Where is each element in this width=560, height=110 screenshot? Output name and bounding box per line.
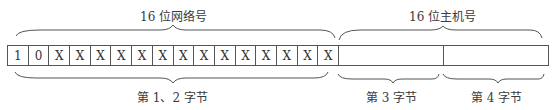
bit-cell: X — [69, 45, 91, 66]
bit-cell: X — [235, 45, 257, 66]
bytes12-brace — [15, 72, 328, 83]
bit-cell: X — [214, 45, 236, 66]
bit-cell: X — [110, 45, 132, 66]
byte4-cell — [443, 45, 549, 66]
bit-cell: 1 — [7, 45, 29, 66]
byte-3-label: 第 3 字节 — [366, 88, 417, 105]
bit-cell: X — [276, 45, 298, 66]
bit-cell: X — [297, 45, 319, 66]
ip-address-bit-row: 1 0 X X X X X X X X X X X X X X — [7, 45, 549, 66]
byte3-cell — [338, 45, 444, 66]
bit-cell: X — [48, 45, 70, 66]
bit-cell: X — [131, 45, 153, 66]
bit-cell: X — [152, 45, 174, 66]
byte3-brace — [338, 74, 439, 83]
host-bits-label: 16 位主机号 — [409, 7, 476, 24]
byte4-brace — [443, 74, 544, 83]
network-brace — [16, 25, 335, 38]
bit-cell: X — [173, 45, 195, 66]
bit-cell: X — [193, 45, 215, 66]
network-bits-label: 16 位网络号 — [140, 7, 207, 24]
bytes-1-2-label: 第 1、2 字节 — [137, 88, 208, 105]
bit-cell: X — [255, 45, 277, 66]
byte-4-label: 第 4 字节 — [471, 88, 522, 105]
bit-cell: 0 — [28, 45, 50, 66]
host-brace — [339, 26, 542, 40]
bit-cell: X — [317, 45, 339, 66]
bit-cell: X — [90, 45, 112, 66]
